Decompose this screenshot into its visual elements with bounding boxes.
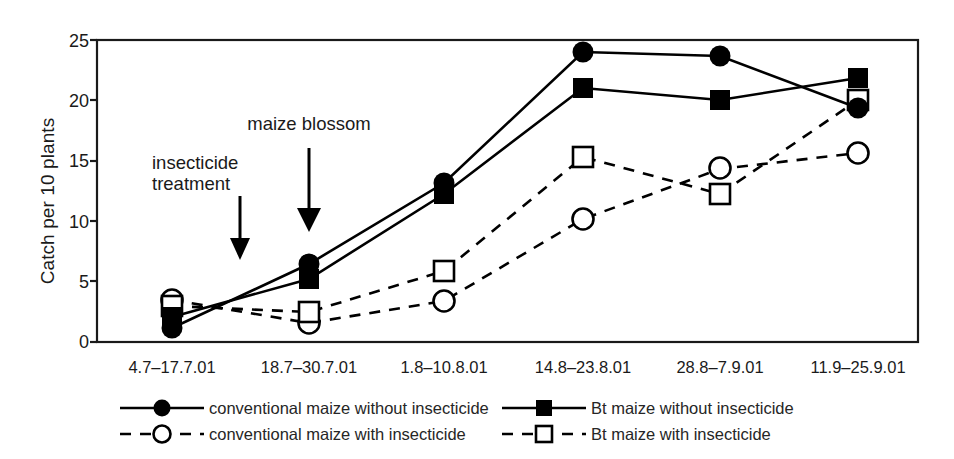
- legend-label: Bt maize with insecticide: [591, 425, 771, 444]
- data-point: [710, 184, 730, 204]
- chart-legend: conventional maize without insecticide c…: [0, 396, 954, 459]
- data-point: [434, 184, 454, 204]
- data-point: [848, 98, 869, 119]
- data-point: [434, 261, 454, 281]
- legend-label: conventional maize without insecticide: [209, 399, 489, 418]
- legend-swatch-filled-circle-solid: [118, 398, 206, 418]
- data-point: [162, 307, 182, 327]
- data-point: [848, 68, 868, 88]
- legend-swatch-filled-square-solid: [500, 398, 588, 418]
- legend-label: Bt maize without insecticide: [591, 399, 794, 418]
- legend-item-bt-without-insecticide: Bt maize without insecticide: [500, 398, 794, 418]
- legend-item-conventional-without-insecticide: conventional maize without insecticide: [118, 398, 489, 418]
- chart-figure: Catch per 10 plants 25 20 15 10 5 0 4.7–…: [0, 0, 954, 459]
- legend-item-bt-with-insecticide: Bt maize with insecticide: [500, 424, 771, 444]
- chart-canvas: [0, 0, 954, 459]
- legend-item-conventional-with-insecticide: conventional maize with insecticide: [118, 424, 466, 444]
- data-point: [710, 158, 731, 179]
- series-conventional-with-insecticide: [162, 143, 869, 334]
- data-point: [573, 147, 593, 167]
- legend-label: conventional maize with insecticide: [209, 425, 466, 444]
- data-point: [848, 143, 869, 164]
- data-point: [710, 46, 731, 67]
- annotation-arrow-maize-blossom: [297, 148, 321, 232]
- series-conventional-without-insecticide: [162, 42, 869, 339]
- annotation-arrow-insecticide: [230, 196, 250, 260]
- data-point: [710, 90, 730, 110]
- data-point: [573, 42, 594, 63]
- data-point: [434, 291, 455, 312]
- legend-swatch-open-circle-dashed: [118, 424, 206, 444]
- data-point: [573, 78, 593, 98]
- data-point: [299, 302, 319, 322]
- legend-swatch-open-square-dashed: [500, 424, 588, 444]
- data-point: [299, 269, 319, 289]
- series-bt-with-insecticide: [162, 90, 868, 322]
- series-bt-without-insecticide: [162, 68, 868, 327]
- data-point: [573, 209, 594, 230]
